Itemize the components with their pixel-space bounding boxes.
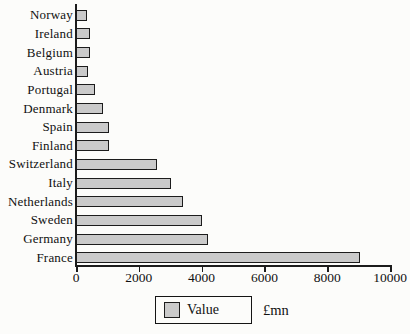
category-label: France — [36, 250, 73, 266]
category-label: Netherlands — [8, 194, 73, 210]
bar — [76, 140, 109, 151]
category-label: Finland — [32, 138, 73, 154]
category-label: Sweden — [31, 212, 73, 228]
bar — [76, 215, 202, 226]
x-tick-label: 10000 — [373, 270, 407, 286]
category-label: Belgium — [27, 45, 73, 61]
bar — [76, 28, 90, 39]
category-label: Italy — [48, 175, 73, 191]
legend-swatch-icon — [164, 302, 180, 318]
category-label: Spain — [42, 119, 73, 135]
bar — [76, 234, 208, 245]
category-label: Austria — [33, 63, 73, 79]
plot-area: NorwayIrelandBelgiumAustriaPortugalDenma… — [0, 0, 410, 334]
bar — [76, 84, 95, 95]
x-tick-label: 4000 — [188, 270, 215, 286]
category-label: Germany — [23, 231, 73, 247]
bar — [76, 103, 103, 114]
bar-chart-figure: NorwayIrelandBelgiumAustriaPortugalDenma… — [0, 0, 410, 334]
legend-unit-label: £mn — [263, 302, 289, 319]
category-label: Norway — [30, 7, 73, 23]
bar — [76, 66, 88, 77]
category-label: Portugal — [27, 82, 73, 98]
bar — [76, 196, 183, 207]
x-tick-label: 2000 — [125, 270, 152, 286]
x-tick-label: 8000 — [314, 270, 341, 286]
bar — [76, 10, 87, 21]
bar — [76, 47, 90, 58]
bar — [76, 159, 157, 170]
x-axis-line — [75, 265, 392, 267]
legend-box: Value — [155, 296, 252, 324]
legend: Value £mn — [155, 296, 289, 324]
category-label: Switzerland — [9, 156, 73, 172]
category-label: Ireland — [35, 26, 73, 42]
bar — [76, 178, 171, 189]
bar — [76, 252, 360, 263]
legend-label: Value — [187, 302, 219, 318]
category-label: Denmark — [23, 101, 73, 117]
x-tick-label: 6000 — [251, 270, 278, 286]
y-axis-line — [75, 4, 77, 267]
x-tick-label: 0 — [73, 270, 80, 286]
bar — [76, 122, 109, 133]
